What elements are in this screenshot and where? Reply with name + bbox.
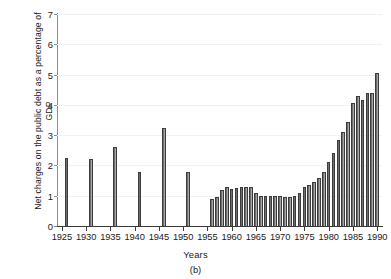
x-axis-tickmark [256, 227, 257, 231]
bar [341, 132, 345, 226]
bar [244, 187, 248, 226]
bar [356, 96, 360, 226]
x-axis-tick-label: 1990 [367, 232, 387, 242]
y-axis-tick-label: 3 [48, 130, 53, 141]
x-axis-tick-label: 1965 [246, 232, 266, 242]
y-axis-tick-label: 6 [48, 39, 53, 50]
x-axis-tick-label: 1955 [197, 232, 217, 242]
bar [332, 153, 336, 226]
x-axis-tickmark [377, 227, 378, 231]
x-axis-tickmark [304, 227, 305, 231]
bar [215, 197, 219, 226]
x-axis-tick-label: 1970 [270, 232, 290, 242]
bar [361, 100, 365, 226]
bar [162, 128, 166, 226]
bar [346, 122, 350, 226]
x-axis-tick-labels: 1925193019351940194519501955196019651970… [0, 232, 391, 246]
x-axis-tick-label: 1950 [173, 232, 193, 242]
bar [288, 197, 292, 226]
x-axis-tick-label: 1925 [52, 232, 72, 242]
x-axis-tick-label: 1985 [343, 232, 363, 242]
x-axis-tick-label: 1930 [76, 232, 96, 242]
bar [225, 187, 229, 226]
bar [278, 196, 282, 226]
bar [366, 93, 370, 226]
x-axis-tickmark [62, 227, 63, 231]
bar [351, 103, 355, 226]
bar [259, 196, 263, 226]
bar [317, 178, 321, 226]
bar [240, 187, 244, 226]
y-axis-tick-label: 4 [48, 99, 53, 110]
x-axis-tick-label: 1960 [221, 232, 241, 242]
x-axis-tickmark [159, 227, 160, 231]
x-axis-tickmark [329, 227, 330, 231]
x-axis-tickmark [353, 227, 354, 231]
bar [138, 172, 142, 227]
bar [293, 196, 297, 226]
x-axis-tick-label: 1940 [124, 232, 144, 242]
bar [264, 196, 268, 226]
figure-caption: (b) [0, 264, 391, 275]
bar [113, 147, 117, 226]
bar [254, 193, 258, 226]
y-axis-tick-label: 2 [48, 160, 53, 171]
x-axis-tickmark [232, 227, 233, 231]
x-axis-tickmark [183, 227, 184, 231]
bar [312, 182, 316, 226]
bar [337, 140, 341, 226]
x-axis-tickmark [280, 227, 281, 231]
bar [210, 199, 214, 226]
bar-series [57, 14, 382, 226]
y-axis-title: Net charges on the public debt as a perc… [28, 6, 60, 216]
plot-area: 01234567 [57, 14, 382, 226]
bar [269, 196, 273, 226]
bar [273, 196, 277, 226]
bar [322, 172, 326, 227]
x-axis-tick-label: 1980 [318, 232, 338, 242]
bar [303, 187, 307, 226]
bar [283, 197, 287, 226]
bar [220, 190, 224, 226]
x-axis-tickmark [110, 227, 111, 231]
bar [186, 172, 190, 227]
y-axis-tick-label: 7 [48, 9, 53, 20]
x-axis-tickmark [86, 227, 87, 231]
chart-figure: Net charges on the public debt as a perc… [0, 0, 391, 279]
x-axis-tickmark [135, 227, 136, 231]
x-axis-tick-label: 1935 [100, 232, 120, 242]
y-axis-tick-label: 5 [48, 69, 53, 80]
y-axis-tick-label: 1 [48, 190, 53, 201]
bar [298, 193, 302, 226]
bar [327, 162, 331, 226]
bar [230, 189, 234, 226]
x-axis-title: Years [0, 249, 391, 260]
bar [375, 73, 379, 226]
bar [235, 188, 239, 226]
bar [65, 158, 69, 226]
x-axis-tick-label: 1945 [149, 232, 169, 242]
bar [249, 187, 253, 226]
x-axis-tickmark [207, 227, 208, 231]
x-axis-tick-label: 1975 [294, 232, 314, 242]
bar [370, 93, 374, 226]
bar [307, 185, 311, 226]
y-axis-tick-label: 0 [48, 221, 53, 232]
bar [89, 159, 93, 226]
